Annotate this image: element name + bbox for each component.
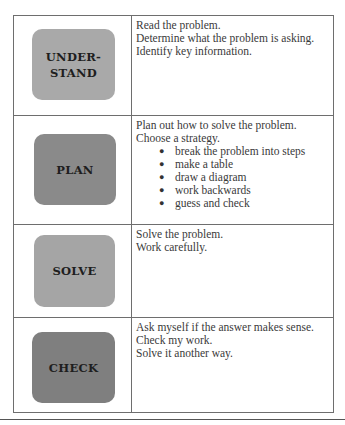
check-badge: CHECK <box>32 332 115 403</box>
bullet-icon: ● <box>159 184 164 197</box>
solve-badge: SOLVE <box>34 235 115 307</box>
step-row-solve: SOLVE Solve the problem. Work carefully. <box>14 225 334 318</box>
problem-solving-steps-table: UNDER- STAND Read the problem. Determine… <box>13 15 334 413</box>
strategy-item: ●guess and check <box>175 197 329 210</box>
plan-badge: PLAN <box>34 134 116 205</box>
bullet-icon: ● <box>159 171 164 184</box>
understand-badge: UNDER- STAND <box>32 29 115 100</box>
description-line: Choose a strategy. <box>136 132 329 145</box>
step-row-plan: PLAN Plan out how to solve the problem. … <box>14 116 334 225</box>
step-row-understand: UNDER- STAND Read the problem. Determine… <box>14 16 334 116</box>
step-icon-cell: UNDER- STAND <box>14 16 132 116</box>
bullet-icon: ● <box>159 158 164 171</box>
step-row-check: CHECK Ask myself if the answer makes sen… <box>14 318 334 413</box>
strategy-item: ●work backwards <box>175 184 329 197</box>
step-icon-cell: CHECK <box>14 318 132 413</box>
step-description: Solve the problem. Work carefully. <box>132 225 334 318</box>
step-icon-cell: SOLVE <box>14 225 132 318</box>
step-description: Plan out how to solve the problem. Choos… <box>132 116 334 225</box>
strategy-item: ●draw a diagram <box>175 171 329 184</box>
strategy-list: ●break the problem into steps ●make a ta… <box>136 145 329 210</box>
step-icon-cell: PLAN <box>14 116 132 225</box>
description-line: Ask myself if the answer makes sense. <box>136 321 329 334</box>
description-line: Determine what the problem is asking. <box>136 32 329 45</box>
bullet-icon: ● <box>159 197 164 210</box>
strategy-item: ●make a table <box>175 158 329 171</box>
description-line: Check my work. <box>136 334 329 347</box>
description-line: Work carefully. <box>136 241 329 254</box>
step-description: Ask myself if the answer makes sense. Ch… <box>132 318 334 413</box>
description-line: Solve it another way. <box>136 347 329 360</box>
bullet-icon: ● <box>159 145 164 158</box>
description-line: Plan out how to solve the problem. <box>136 119 329 132</box>
page-divider <box>0 419 345 420</box>
strategy-item: ●break the problem into steps <box>175 145 329 158</box>
step-description: Read the problem. Determine what the pro… <box>132 16 334 116</box>
description-line: Solve the problem. <box>136 228 329 241</box>
description-line: Identify key information. <box>136 45 329 58</box>
description-line: Read the problem. <box>136 19 329 32</box>
